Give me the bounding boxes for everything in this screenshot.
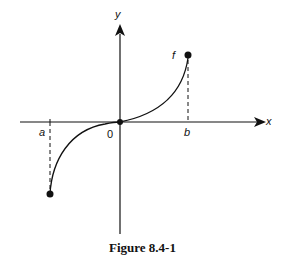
y-axis-label: y <box>115 9 121 20</box>
figure-caption: Figure 8.4-1 <box>0 240 285 255</box>
endpoint-b <box>185 52 192 59</box>
function-label: f <box>172 50 175 61</box>
origin-point <box>117 119 123 125</box>
function-curve <box>50 58 188 194</box>
figure: y x f a b 0 Figure 8.4-1 <box>0 0 285 255</box>
origin-label: 0 <box>107 129 113 140</box>
endpoint-a <box>47 191 54 198</box>
b-label: b <box>184 127 190 138</box>
x-axis-label: x <box>266 116 272 127</box>
a-label: a <box>39 127 45 138</box>
